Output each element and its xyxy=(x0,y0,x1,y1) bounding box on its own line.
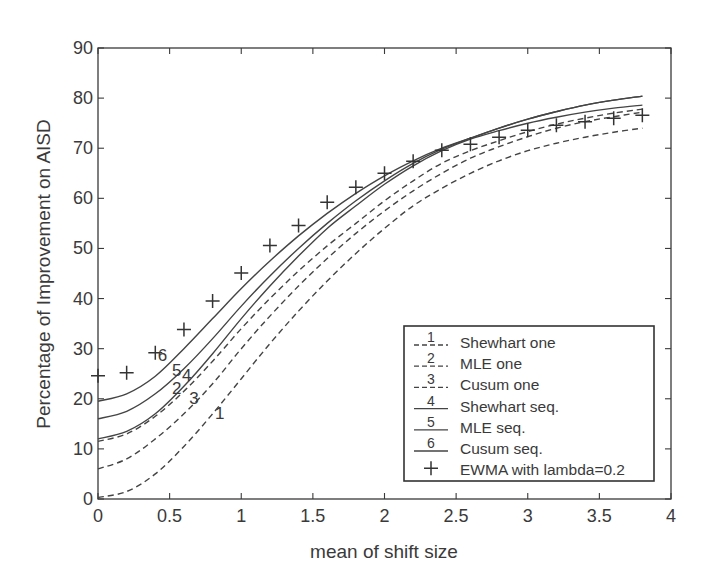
plus-marker xyxy=(549,118,563,132)
plus-marker xyxy=(234,266,248,280)
plus-marker xyxy=(349,180,363,194)
chart: 00.511.522.533.540102030405060708090 123… xyxy=(0,0,710,581)
plus-marker xyxy=(521,123,535,137)
x-tick-label: 3.5 xyxy=(587,506,612,526)
legend-label: Cusum one xyxy=(460,376,539,393)
x-axis-label: mean of shift size xyxy=(310,541,458,562)
legend-key: 4 xyxy=(427,393,435,409)
legend: 1Shewhart one2MLE one3Cusum one4Shewhart… xyxy=(404,326,654,481)
x-tick-label: 1 xyxy=(236,506,246,526)
legend-label: Shewhart seq. xyxy=(460,398,559,415)
legend-label: Shewhart one xyxy=(460,334,556,351)
y-axis-label: Percentage of Improvement on AISD xyxy=(33,119,54,428)
y-tick-label: 30 xyxy=(73,339,93,359)
x-tick-label: 1.5 xyxy=(300,506,325,526)
x-tick-label: 4 xyxy=(666,506,676,526)
y-tick-label: 40 xyxy=(73,289,93,309)
y-tick-label: 60 xyxy=(73,188,93,208)
y-tick-label: 10 xyxy=(73,439,93,459)
y-tick-label: 80 xyxy=(73,88,93,108)
x-tick-label: 0 xyxy=(93,506,103,526)
curve-label-1: 1 xyxy=(215,404,224,423)
legend-label: Cusum seq. xyxy=(460,440,543,457)
legend-label: EWMA with lambda=0.2 xyxy=(460,461,625,478)
y-tick-label: 0 xyxy=(83,489,93,509)
plus-marker xyxy=(91,369,105,383)
line-chart: 00.511.522.533.540102030405060708090 123… xyxy=(0,0,710,581)
x-tick-label: 3 xyxy=(523,506,533,526)
curve-label-3: 3 xyxy=(189,389,198,408)
y-tick-label: 50 xyxy=(73,238,93,258)
plus-marker xyxy=(435,143,449,157)
legend-label: MLE one xyxy=(460,355,522,372)
y-tick-label: 90 xyxy=(73,38,93,58)
legend-key: 2 xyxy=(427,350,435,366)
x-tick-label: 2.5 xyxy=(444,506,469,526)
legend-key: 6 xyxy=(427,435,435,451)
legend-key: 5 xyxy=(427,414,435,430)
plus-marker xyxy=(263,238,277,252)
curve-label-5: 5 xyxy=(172,361,181,380)
y-tick-label: 70 xyxy=(73,138,93,158)
legend-label: MLE seq. xyxy=(460,419,525,436)
legend-key: 3 xyxy=(427,371,435,387)
plus-marker xyxy=(320,195,334,209)
x-tick-label: 2 xyxy=(379,506,389,526)
x-tick-label: 0.5 xyxy=(157,506,182,526)
plus-marker xyxy=(292,218,306,232)
curve-label-2: 2 xyxy=(172,379,181,398)
curve-label-4: 4 xyxy=(182,366,191,385)
curve-label-6: 6 xyxy=(158,346,167,365)
legend-key: 1 xyxy=(427,329,435,345)
y-tick-label: 20 xyxy=(73,389,93,409)
plus-marker xyxy=(177,323,191,337)
plus-marker xyxy=(120,366,134,380)
plus-marker xyxy=(206,294,220,308)
